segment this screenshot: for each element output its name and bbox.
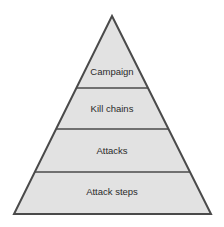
level-label-attack-steps: Attack steps <box>86 186 138 197</box>
level-label-campaign: Campaign <box>90 66 133 77</box>
pyramid-diagram: Campaign Kill chains Attacks Attack step… <box>0 0 224 227</box>
level-label-kill-chains: Kill chains <box>91 103 134 114</box>
pyramid-outline <box>14 16 211 214</box>
level-label-attacks: Attacks <box>96 145 127 156</box>
